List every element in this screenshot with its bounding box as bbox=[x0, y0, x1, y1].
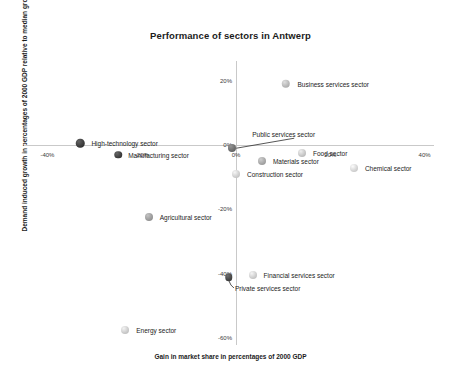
leader-lines bbox=[0, 0, 461, 377]
x-tick-label: 40% bbox=[419, 152, 431, 158]
y-tick-label: 20% bbox=[210, 78, 232, 84]
data-point-marker bbox=[76, 139, 85, 148]
data-point-label: Construction sector bbox=[247, 170, 303, 177]
x-tick-label: -40% bbox=[40, 152, 54, 158]
data-point-marker bbox=[145, 213, 153, 221]
data-point-marker bbox=[258, 157, 266, 165]
data-point-marker bbox=[121, 326, 129, 334]
data-point-marker bbox=[228, 144, 236, 152]
data-point-marker bbox=[350, 164, 358, 172]
y-tick-label: -20% bbox=[210, 206, 232, 212]
data-point-label: Agricultural sector bbox=[160, 214, 212, 221]
data-point-marker bbox=[249, 271, 257, 279]
data-point-marker bbox=[298, 149, 306, 157]
data-point-marker bbox=[232, 170, 240, 178]
data-point-label: Public services sector bbox=[252, 131, 315, 138]
x-axis-label: Gain in market share in percentages of 2… bbox=[0, 353, 461, 360]
y-axis-line bbox=[236, 61, 237, 344]
data-point-marker bbox=[114, 151, 122, 159]
data-point-label: Financial services sector bbox=[264, 272, 335, 279]
chart-title: Performance of sectors in Antwerp bbox=[0, 30, 461, 41]
data-point-label: Materials sector bbox=[273, 158, 319, 165]
data-point-label: Business services sector bbox=[298, 80, 370, 87]
data-point-label: Energy sector bbox=[136, 327, 176, 334]
y-axis-label: Demand induced growth in percentages of … bbox=[21, 12, 28, 232]
data-point-label: Chemical sector bbox=[365, 164, 412, 171]
data-point-label: Food sector bbox=[313, 150, 347, 157]
data-point-marker bbox=[225, 273, 233, 281]
scatter-chart: Performance of sectors in Antwerp Gain i… bbox=[0, 0, 461, 377]
y-tick-label: -60% bbox=[210, 335, 232, 341]
data-point-marker bbox=[281, 80, 290, 89]
data-point-label: Manufacturing sector bbox=[128, 151, 189, 158]
data-point-label: Private services sector bbox=[235, 285, 300, 292]
data-point-label: High-technology sector bbox=[91, 140, 157, 147]
x-tick-label: 0% bbox=[232, 152, 241, 158]
